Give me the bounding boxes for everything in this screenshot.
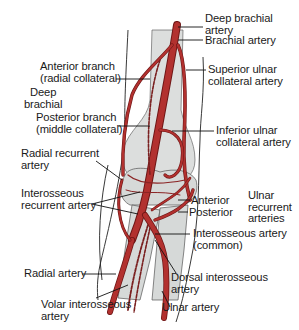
label-anterior-branch: Anterior branch (radial collateral) xyxy=(40,61,121,84)
label-radial-artery: Radial artery xyxy=(24,268,86,280)
label-interosseous-recurrent: Interosseous recurrent artery xyxy=(21,188,96,211)
label-dorsal-interosseous: Dorsal interosseous artery xyxy=(171,272,268,295)
label-volar-interosseous: Volar interosseous artery xyxy=(41,299,131,322)
label-superior-ulnar-collateral: Superior ulnar collateral artery xyxy=(208,64,283,87)
label-posterior: Posterior xyxy=(189,207,233,219)
label-radial-recurrent: Radial recurrent artery xyxy=(21,148,99,171)
label-deep-brachial-artery: Deep brachial artery xyxy=(205,13,273,36)
label-brachial-artery: Brachial artery xyxy=(205,35,276,47)
label-ulnar-recurrent-arteries: Ulnar recurrent arteries xyxy=(248,190,292,225)
label-deep-brachial-group: Deep brachial xyxy=(24,87,62,110)
label-inferior-ulnar-collateral: Inferior ulnar collateral artery xyxy=(216,125,291,148)
label-posterior-branch: Posterior branch (middle collateral) xyxy=(36,112,122,135)
label-anterior: Anterior xyxy=(191,195,229,207)
label-interosseous-common: Interosseous artery (common) xyxy=(193,228,287,251)
label-ulnar-artery: Ulnar artery xyxy=(162,302,219,314)
elbow-arteries-diagram: Deep brachial artery Brachial artery Ant… xyxy=(0,0,299,330)
